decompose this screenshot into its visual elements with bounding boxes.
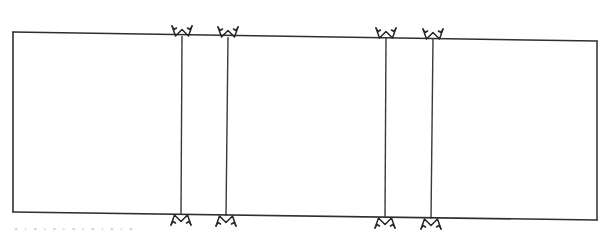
divider-4 bbox=[431, 39, 433, 219]
divider-1 bbox=[181, 36, 182, 215]
divider-group bbox=[181, 36, 433, 219]
outer-rectangle bbox=[13, 32, 597, 220]
bowtie-marker-bottom-3 bbox=[375, 218, 395, 228]
divider-3 bbox=[385, 38, 386, 218]
bowtie-marker-top-4 bbox=[423, 29, 443, 39]
bowtie-marker-bottom-4 bbox=[421, 219, 441, 229]
frame-bottom-edge bbox=[13, 212, 597, 220]
bowtie-marker-top-3 bbox=[376, 28, 396, 38]
frame-top-edge bbox=[13, 32, 597, 41]
divider-2 bbox=[226, 37, 228, 216]
bowtie-marker-bottom-1 bbox=[171, 215, 191, 225]
panel-diagram bbox=[0, 0, 612, 240]
bowtie-marker-bottom-2 bbox=[216, 216, 236, 226]
scanned-page: I . I . I . I . I . I . I bbox=[0, 0, 612, 240]
